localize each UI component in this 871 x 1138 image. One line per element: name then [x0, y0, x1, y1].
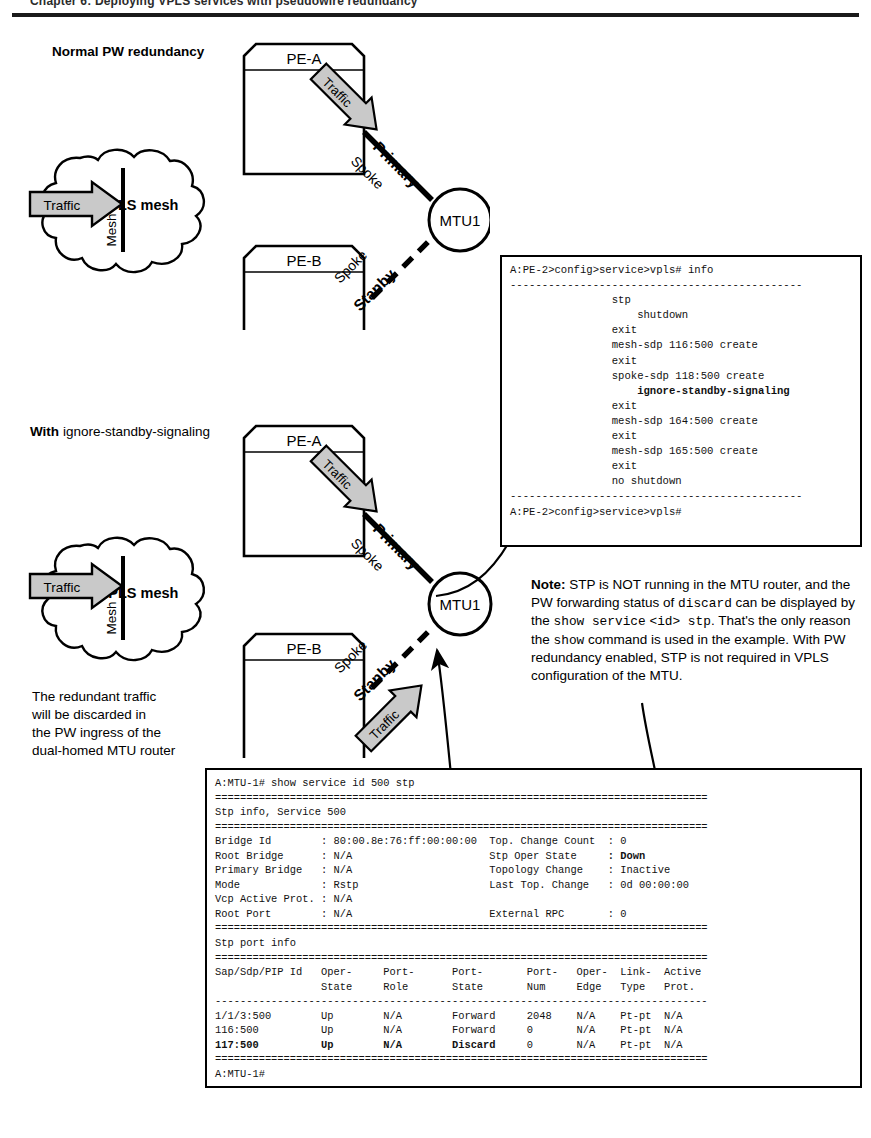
cli-show-sep-2: ========================================… [215, 821, 708, 833]
info-row-5-value: : N/A [321, 907, 489, 922]
cli-config-line-0: stp [510, 294, 631, 306]
cli-config-prompt-top: A:PE-2>config>service>vpls# info [510, 264, 713, 276]
row-1-cell-7: N/A [664, 1024, 683, 1036]
info-row-3-value: : Rstp [321, 878, 489, 893]
info-row-2-label2: Topology Change [489, 863, 607, 878]
row-1-cell-1: Up [321, 1023, 383, 1038]
cli-show-sep-1: ========================================… [215, 792, 708, 804]
col-head-6: Link- [620, 965, 664, 980]
row-2-cell-2: N/A [383, 1038, 452, 1053]
info-row-4-value: : N/A [321, 892, 489, 907]
info-row-1: Root Bridge: N/AStp Oper State: Down [215, 850, 645, 862]
cli-show-sep-3: ========================================… [215, 922, 708, 934]
cli-show-prompt-bottom: A:MTU-1# [215, 1068, 265, 1080]
info-row-3: Mode: RstpLast Top. Change: 0d 00:00:00 [215, 879, 689, 891]
table-row: 116:500UpN/AForward0N/APt-ptN/A [215, 1024, 683, 1036]
col-head-5: Oper- [577, 965, 621, 980]
cli-config-line-12: no shutdown [510, 475, 682, 487]
col-head-7: Active [664, 966, 701, 978]
cli-show-text: A:MTU-1# show service id 500 stp =======… [207, 770, 860, 1086]
page-root: Chapter 6: Deploying VPLS services with … [0, 0, 871, 1138]
col-head2-7: Prot. [664, 981, 695, 993]
info-row-5-label2: External RPC [489, 907, 607, 922]
row-0-cell-0: 1/1/3:500 [215, 1009, 321, 1024]
info-row-5-label: Root Port [215, 907, 321, 922]
row-2-cell-4: 0 [527, 1038, 577, 1053]
row-2-cell-5: N/A [577, 1038, 621, 1053]
col-head-line-2: StateRoleStateNumEdgeTypeProt. [215, 981, 695, 993]
cli-config-line-2: exit [510, 324, 637, 336]
row-0-cell-3: Forward [452, 1009, 527, 1024]
cli-config-line-11: exit [510, 460, 637, 472]
cli-show-sep-5: ----------------------------------------… [215, 995, 708, 1007]
cli-config-line-4: exit [510, 355, 637, 367]
info-row-2-label: Primary Bridge [215, 863, 321, 878]
cli-show-box[interactable]: A:MTU-1# show service id 500 stp =======… [205, 768, 862, 1088]
row-1-cell-0: 116:500 [215, 1023, 321, 1038]
cli-config-sep-top: ----------------------------------------… [510, 279, 802, 291]
info-row-0: Bridge Id: 80:00.8e:76:ff:00:00:00Top. C… [215, 835, 627, 847]
row-2-cell-3: Discard [452, 1038, 527, 1053]
row-1-cell-4: 0 [527, 1023, 577, 1038]
cli-show-title-1: Stp info, Service 500 [215, 806, 346, 818]
row-2-cell-0: 117:500 [215, 1038, 321, 1053]
info-row-0-value2: : 0 [608, 835, 627, 847]
cli-show-prompt-top: A:MTU-1# show service id 500 stp [215, 777, 415, 789]
cli-show-sep-6: ========================================… [215, 1053, 708, 1065]
cli-config-text: A:PE-2>config>service>vpls# info -------… [502, 257, 860, 525]
col-head2-3: State [452, 980, 527, 995]
col-head2-2: Role [383, 980, 452, 995]
cli-show-title-2: Stp port info [215, 937, 296, 949]
row-2-cell-7: N/A [664, 1039, 683, 1051]
info-row-2-value: : N/A [321, 863, 489, 878]
col-head2-1: State [321, 980, 383, 995]
info-row-3-value2: : 0d 00:00:00 [608, 879, 689, 891]
info-row-1-label2: Stp Oper State [489, 849, 607, 864]
cli-config-line-7: exit [510, 400, 637, 412]
info-row-3-label: Mode [215, 878, 321, 893]
row-0-cell-1: Up [321, 1009, 383, 1024]
col-head2-4: Num [527, 980, 577, 995]
col-head-2: Port- [383, 965, 452, 980]
info-row-4-label: Vcp Active Prot. [215, 892, 321, 907]
row-2-cell-6: Pt-pt [620, 1038, 664, 1053]
table-row: 117:500UpN/ADiscard0N/APt-ptN/A [215, 1039, 683, 1051]
cli-config-line-3: mesh-sdp 116:500 create [510, 339, 758, 351]
row-2-cell-1: Up [321, 1038, 383, 1053]
cli-config-sep-bottom: ----------------------------------------… [510, 490, 802, 502]
cli-config-line-5: spoke-sdp 118:500 create [510, 370, 764, 382]
info-row-1-value: : N/A [321, 849, 489, 864]
row-0-cell-5: N/A [577, 1009, 621, 1024]
info-row-0-value: : 80:00.8e:76:ff:00:00:00 [321, 834, 489, 849]
cli-config-box[interactable]: A:PE-2>config>service>vpls# info -------… [500, 255, 862, 547]
info-row-1-value2: : Down [608, 850, 645, 862]
info-row-0-label2: Top. Change Count [489, 834, 607, 849]
col-head-0: Sap/Sdp/PIP Id [215, 965, 321, 980]
info-row-1-label: Root Bridge [215, 849, 321, 864]
row-0-cell-6: Pt-pt [620, 1009, 664, 1024]
info-row-2: Primary Bridge: N/ATopology Change: Inac… [215, 864, 670, 876]
col-head2-5: Edge [577, 980, 621, 995]
row-1-cell-3: Forward [452, 1023, 527, 1038]
col-head-1: Oper- [321, 965, 383, 980]
cli-config-prompt-bottom: A:PE-2>config>service>vpls# [510, 506, 682, 518]
cli-config-line-1: shutdown [510, 309, 688, 321]
cli-config-line-10: mesh-sdp 165:500 create [510, 445, 758, 457]
cli-config-line-9: exit [510, 430, 637, 442]
row-0-cell-7: N/A [664, 1010, 683, 1022]
table-row: 1/1/3:500UpN/AForward2048N/APt-ptN/A [215, 1010, 683, 1022]
col-head-4: Port- [527, 965, 577, 980]
row-0-cell-2: N/A [383, 1009, 452, 1024]
cli-config-line-6: ignore-standby-signaling [510, 385, 790, 397]
row-1-cell-2: N/A [383, 1023, 452, 1038]
col-head-3: Port- [452, 965, 527, 980]
info-row-4: Vcp Active Prot.: N/A [215, 893, 608, 905]
cli-config-line-8: mesh-sdp 164:500 create [510, 415, 758, 427]
col-head-line-1: Sap/Sdp/PIP IdOper-Port-Port-Port-Oper-L… [215, 966, 701, 978]
info-row-5-value2: : 0 [608, 908, 627, 920]
cli-show-sep-4: ========================================… [215, 952, 708, 964]
info-row-0-label: Bridge Id [215, 834, 321, 849]
col-head2-6: Type [620, 980, 664, 995]
row-1-cell-6: Pt-pt [620, 1023, 664, 1038]
info-row-3-label2: Last Top. Change [489, 878, 607, 893]
